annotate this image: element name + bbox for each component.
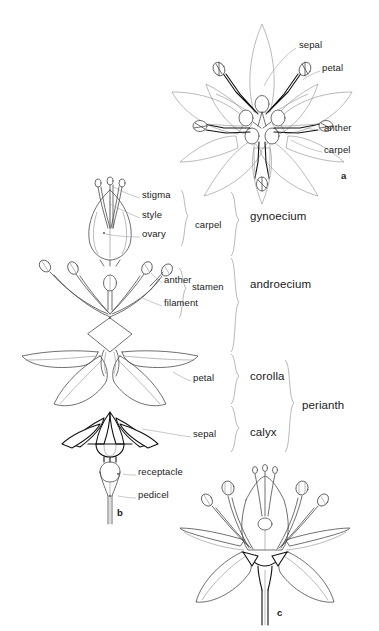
callout-filament: filament (164, 298, 198, 308)
callout-anther-b: anther (164, 275, 192, 285)
panel-b-corolla (22, 350, 198, 406)
bracket-label-perianth: perianth (302, 400, 344, 412)
callout-anther-a: anther (324, 123, 352, 133)
bracket-label-androecium: androecium (250, 279, 311, 291)
callout-receptacle: receptacle (138, 467, 183, 477)
flower-diagram-figure: .ln { fill:none; stroke:#4a4a4a; stroke-… (0, 0, 379, 631)
callout-stigma: stigma (142, 190, 171, 200)
bracket-label-stamen: stamen (192, 282, 224, 292)
panel-label-c: c (277, 608, 282, 618)
diagram-artwork: .ln { fill:none; stroke:#4a4a4a; stroke-… (0, 0, 379, 631)
bracket-label-calyx: calyx (250, 427, 277, 439)
callout-sepal-b: sepal (193, 429, 216, 439)
panel-label-b: b (117, 508, 123, 518)
callout-style: style (142, 210, 162, 220)
panel-c-flower-section (180, 465, 350, 626)
panel-a-stamens (193, 60, 333, 191)
panel-a-flower-face-view (172, 24, 352, 204)
panel-label-a: a (341, 171, 346, 181)
panel-b-androecium (37, 258, 175, 352)
callout-sepal-a: sepal (299, 40, 322, 50)
callout-ovary: ovary (142, 229, 166, 239)
callout-pedicel: pedicel (138, 490, 169, 500)
panel-b-gynoecium (89, 177, 131, 266)
bracket-label-gynoecium: gynoecium (250, 211, 307, 223)
panel-b-calyx (62, 412, 158, 462)
callout-petal-a: petal (322, 63, 343, 73)
panel-a-carpel-cluster (239, 96, 285, 145)
callout-petal-b: petal (193, 373, 214, 383)
callout-carpel-a: carpel (324, 145, 350, 155)
bracket-label-corolla: corolla (250, 371, 285, 383)
bracket-label-carpel: carpel (195, 220, 221, 230)
